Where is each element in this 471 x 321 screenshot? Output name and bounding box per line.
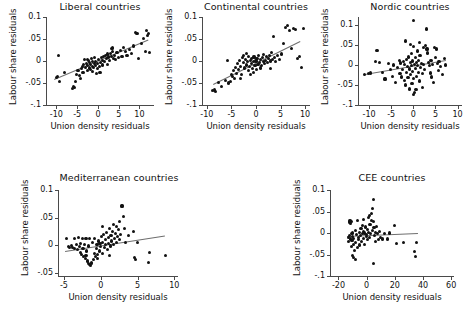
data-point bbox=[413, 250, 416, 253]
y-axis-label: Labour share residuals bbox=[292, 180, 302, 277]
y-tick bbox=[327, 255, 330, 256]
data-point bbox=[363, 243, 366, 246]
x-tick bbox=[338, 277, 339, 280]
data-point bbox=[354, 241, 357, 244]
x-tick bbox=[423, 277, 424, 280]
data-point bbox=[358, 243, 361, 246]
data-point bbox=[362, 218, 365, 221]
data-point bbox=[372, 220, 375, 223]
y-tick bbox=[327, 190, 330, 191]
x-tick-label: -20 bbox=[324, 281, 352, 290]
y-tick bbox=[327, 212, 330, 213]
data-point bbox=[371, 207, 374, 210]
data-point bbox=[395, 242, 398, 245]
data-point bbox=[368, 223, 371, 226]
x-tick bbox=[395, 277, 396, 280]
data-point bbox=[368, 214, 371, 217]
data-point bbox=[393, 224, 396, 227]
x-tick bbox=[367, 277, 368, 280]
x-tick bbox=[451, 277, 452, 280]
data-point bbox=[352, 237, 355, 240]
x-tick-label: 40 bbox=[409, 281, 437, 290]
data-point bbox=[415, 241, 418, 244]
data-point bbox=[372, 198, 375, 201]
data-point bbox=[356, 219, 359, 222]
data-point bbox=[381, 237, 384, 240]
chart-panel: CEE countries0.1.050-.05-.1-200204060Lab… bbox=[0, 0, 471, 321]
data-point bbox=[350, 220, 353, 223]
data-point bbox=[354, 258, 357, 261]
data-point bbox=[354, 229, 357, 232]
x-axis-label: Union density residuals bbox=[318, 292, 466, 302]
data-point bbox=[351, 231, 354, 234]
data-point bbox=[375, 225, 378, 228]
y-tick bbox=[327, 276, 330, 277]
data-point bbox=[414, 255, 417, 258]
x-tick-label: 0 bbox=[353, 281, 381, 290]
data-point bbox=[368, 236, 371, 239]
data-point bbox=[386, 237, 389, 240]
x-tick-label: 60 bbox=[437, 281, 465, 290]
data-point bbox=[353, 249, 356, 252]
x-axis-line bbox=[330, 276, 454, 277]
data-point bbox=[388, 231, 391, 234]
data-point bbox=[372, 262, 375, 265]
data-point bbox=[378, 230, 381, 233]
panel-title: CEE countries bbox=[328, 172, 456, 183]
data-point bbox=[402, 241, 405, 244]
y-axis-line bbox=[330, 190, 331, 276]
x-tick-label: 20 bbox=[381, 281, 409, 290]
y-tick bbox=[327, 233, 330, 234]
